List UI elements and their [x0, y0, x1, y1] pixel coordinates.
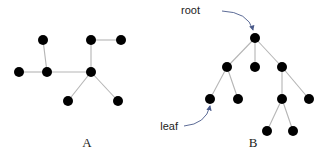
tree-b-edge [227, 38, 255, 67]
tree-diagram: A B root leaf [0, 0, 332, 157]
tree-a-node [113, 96, 123, 106]
tree-b-node [262, 126, 272, 136]
root-arrow-icon [222, 11, 253, 30]
tree-a [14, 35, 126, 106]
tree-a-node [42, 67, 52, 77]
tree-b-edge [267, 99, 282, 131]
tree-a-node [86, 35, 96, 45]
tree-b-edge [210, 67, 227, 99]
caption-b: B [249, 135, 258, 150]
tree-a-edge [91, 72, 118, 101]
root-label: root [181, 4, 200, 16]
tree-b-node [288, 126, 298, 136]
tree-b-edge [255, 38, 282, 67]
leaf-arrow-icon [184, 106, 210, 126]
tree-a-edge [68, 72, 91, 101]
tree-b-node [250, 33, 260, 43]
leaf-label: leaf [160, 120, 179, 132]
tree-b-node [277, 94, 287, 104]
tree-b-edge [227, 67, 238, 99]
tree-b-node [205, 94, 215, 104]
tree-a-node [116, 35, 126, 45]
tree-b-node [304, 94, 314, 104]
caption-a: A [82, 135, 92, 150]
tree-a-node [86, 67, 96, 77]
tree-b-node [277, 62, 287, 72]
tree-a-node [63, 96, 73, 106]
tree-b-node [233, 94, 243, 104]
tree-a-node [38, 35, 48, 45]
tree-a-node [14, 67, 24, 77]
tree-b-edge [282, 67, 309, 99]
tree-b-node [250, 62, 260, 72]
tree-b [205, 33, 314, 136]
tree-b-node [222, 62, 232, 72]
tree-b-edge [282, 99, 293, 131]
